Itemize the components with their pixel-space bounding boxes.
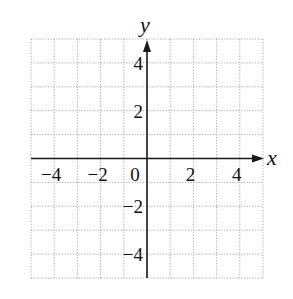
y-tick-label: −4 xyxy=(123,244,144,265)
x-tick-label: 4 xyxy=(232,164,242,185)
y-tick-label: 4 xyxy=(134,53,144,74)
x-axis-arrow-icon xyxy=(252,155,264,163)
x-axis-label: x xyxy=(266,145,277,170)
x-tick-label: 0 xyxy=(130,164,140,185)
axes xyxy=(31,40,264,278)
y-tick-label: −2 xyxy=(123,196,143,217)
y-axis-arrow-icon xyxy=(143,40,151,52)
y-axis-label: y xyxy=(138,12,150,37)
y-tick-label: 2 xyxy=(134,101,144,122)
x-tick-label: −2 xyxy=(87,164,107,185)
x-tick-label: 2 xyxy=(186,164,196,185)
x-tick-label: −4 xyxy=(41,164,62,185)
coordinate-plane: −4−202442−2−4 x y xyxy=(0,0,293,299)
